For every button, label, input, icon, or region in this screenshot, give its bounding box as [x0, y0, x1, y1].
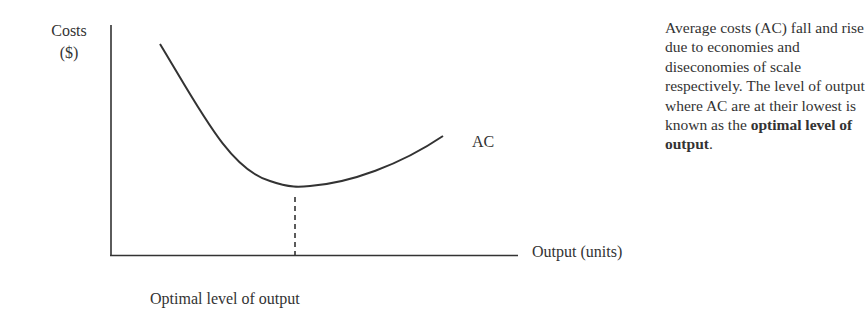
x-axis-label: Output (units) [532, 243, 622, 261]
y-axis-label-line2: ($) [34, 42, 104, 64]
ac-curve [160, 44, 443, 187]
description-text: Average costs (AC) fall and rise due to … [665, 18, 865, 154]
y-axis-label: Costs ($) [34, 20, 104, 64]
optimal-output-label: Optimal level of output [150, 290, 300, 308]
y-axis-label-line1: Costs [34, 20, 104, 42]
description-period: . [709, 135, 713, 152]
curve-label-ac: AC [472, 133, 494, 151]
